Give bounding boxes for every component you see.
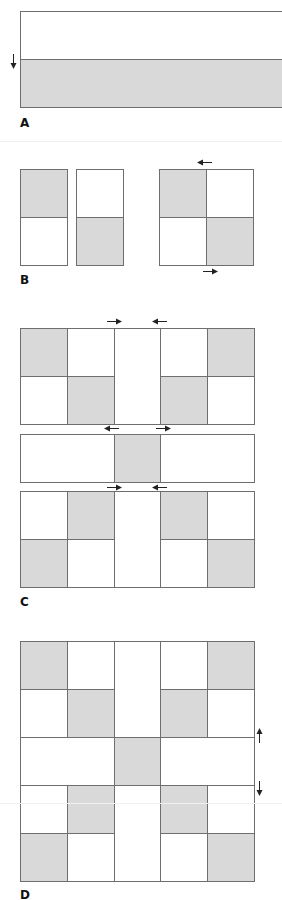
panel-d-middle-left: [20, 737, 115, 786]
panel-d-top-center-column: [114, 641, 161, 738]
panel-b-col2-top: [76, 169, 124, 218]
panel-d-cell: [160, 833, 208, 882]
panel-c-top-cell: [207, 376, 255, 425]
panel-d-cell: [20, 833, 68, 882]
panel-b-col2-bottom: [76, 217, 124, 266]
panel-c-bottom-cell: [160, 539, 208, 588]
panel-c-middle-right: [160, 434, 255, 483]
panel-d-cell: [20, 689, 68, 738]
panel-c-bottom-cell: [20, 491, 68, 540]
panel-b-square-tl: [159, 169, 207, 218]
panel-c-top-cell: [160, 328, 208, 377]
panel-a-label: A: [20, 117, 29, 129]
arrow-right-icon: [107, 318, 122, 325]
panel-b-square-bl: [159, 217, 207, 266]
arrow-down-icon: [10, 54, 17, 70]
panel-d-cell: [160, 641, 208, 690]
arrow-left-icon: [104, 425, 119, 432]
panel-d-cell: [67, 641, 115, 690]
arrow-up-icon: [256, 728, 263, 743]
arrow-down-icon: [256, 781, 263, 796]
panel-c-top-cell: [20, 376, 68, 425]
panel-d-middle-center: [114, 737, 161, 786]
panel-c-top-cell: [20, 328, 68, 377]
panel-d-cell: [20, 785, 68, 834]
panel-d-bottom-center-column: [114, 785, 161, 882]
panel-b-square-br: [206, 217, 254, 266]
arrow-left-icon: [197, 159, 212, 166]
panel-c-top-cell: [160, 376, 208, 425]
panel-c-label: C: [20, 596, 29, 608]
panel-d-cell: [207, 689, 255, 738]
panel-c-bottom-cell: [67, 539, 115, 588]
panel-c-top-cell: [67, 328, 115, 377]
arrow-right-icon: [107, 484, 122, 491]
panel-c-bottom-cell: [67, 491, 115, 540]
panel-c-middle-left: [20, 434, 115, 483]
arrow-right-icon: [156, 425, 171, 432]
arrow-left-icon: [152, 484, 167, 491]
panel-b-col1-top: [20, 169, 68, 218]
panel-c-top-center-column: [114, 328, 161, 425]
panel-c-bottom-cell: [20, 539, 68, 588]
panel-d-cell: [207, 833, 255, 882]
panel-c-bottom-center-column: [114, 491, 161, 588]
panel-b-label: B: [20, 274, 29, 286]
panel-d-cell: [20, 641, 68, 690]
panel-a-top-strip: [20, 11, 282, 60]
panel-c-bottom-cell: [207, 491, 255, 540]
panel-a-bottom-strip: [20, 59, 282, 108]
panel-d-cell: [207, 785, 255, 834]
panel-b-col1-bottom: [20, 217, 68, 266]
panel-c-bottom-cell: [160, 491, 208, 540]
panel-d-cell: [207, 641, 255, 690]
panel-d-cell: [67, 689, 115, 738]
faint-line: [0, 803, 282, 804]
panel-b-square-tr: [206, 169, 254, 218]
panel-d-middle-right: [160, 737, 255, 786]
panel-d-cell: [160, 689, 208, 738]
arrow-right-icon: [203, 268, 218, 275]
panel-d-cell: [67, 833, 115, 882]
panel-c-top-cell: [67, 376, 115, 425]
panel-c-bottom-cell: [207, 539, 255, 588]
panel-d-label: D: [20, 889, 30, 900]
arrow-left-icon: [152, 318, 167, 325]
panel-c-middle-center: [114, 434, 161, 483]
divider: [0, 141, 282, 142]
panel-c-top-cell: [207, 328, 255, 377]
panel-d-cell: [160, 785, 208, 834]
panel-d-cell: [67, 785, 115, 834]
